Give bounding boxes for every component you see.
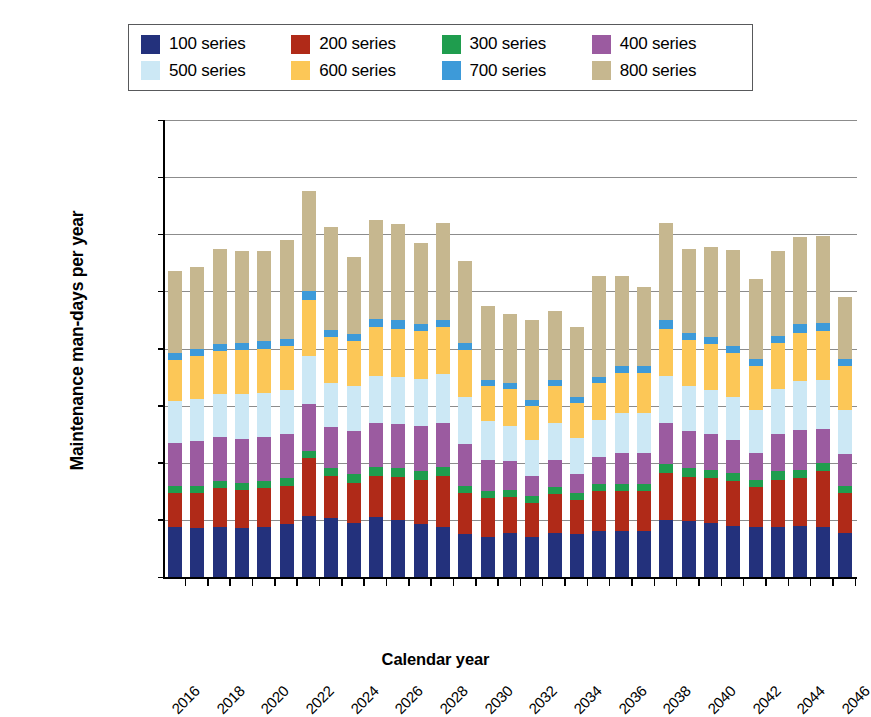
bar-2025[interactable] bbox=[369, 220, 383, 577]
bar-2037[interactable] bbox=[637, 287, 651, 577]
bar-segment-100-series bbox=[659, 520, 673, 577]
bar-segment-200-series bbox=[369, 476, 383, 517]
bar-2019[interactable] bbox=[235, 251, 249, 577]
bar-segment-500-series bbox=[570, 438, 584, 474]
bar-2016[interactable] bbox=[168, 271, 182, 577]
legend-item-400-series[interactable]: 400 series bbox=[592, 31, 742, 57]
bar-2020[interactable] bbox=[257, 251, 271, 577]
x-tick-label: 2044 bbox=[793, 682, 828, 717]
x-tick-mark bbox=[542, 577, 544, 586]
bar-segment-800-series bbox=[726, 250, 740, 346]
bar-segment-100-series bbox=[190, 528, 204, 577]
bar-segment-300-series bbox=[280, 478, 294, 485]
bar-2043[interactable] bbox=[771, 251, 785, 577]
x-tick-label: 2026 bbox=[391, 682, 426, 717]
bar-segment-200-series bbox=[391, 477, 405, 520]
bar-segment-600-series bbox=[347, 341, 361, 385]
bar-segment-100-series bbox=[726, 526, 740, 577]
bar-segment-300-series bbox=[793, 470, 807, 479]
bar-2046[interactable] bbox=[838, 297, 852, 577]
bar-2022[interactable] bbox=[302, 191, 316, 577]
bar-2029[interactable] bbox=[458, 261, 472, 577]
bar-2027[interactable] bbox=[414, 243, 428, 577]
bar-segment-500-series bbox=[436, 374, 450, 423]
legend-item-300-series[interactable]: 300 series bbox=[442, 31, 592, 57]
bar-segment-400-series bbox=[280, 434, 294, 478]
bar-segment-700-series bbox=[615, 366, 629, 373]
bar-segment-100-series bbox=[213, 527, 227, 577]
bar-segment-700-series bbox=[659, 320, 673, 329]
bar-segment-400-series bbox=[525, 476, 539, 496]
bar-segment-500-series bbox=[838, 410, 852, 454]
bar-segment-100-series bbox=[637, 531, 651, 577]
x-tick-mark bbox=[341, 577, 343, 586]
bar-segment-600-series bbox=[615, 373, 629, 413]
x-tick-mark bbox=[408, 577, 410, 586]
bar-2031[interactable] bbox=[503, 314, 517, 577]
bar-segment-800-series bbox=[592, 276, 606, 377]
bar-2045[interactable] bbox=[816, 236, 830, 577]
bar-segment-300-series bbox=[570, 493, 584, 500]
bar-segment-400-series bbox=[838, 454, 852, 485]
bar-segment-500-series bbox=[369, 376, 383, 423]
bar-segment-800-series bbox=[838, 297, 852, 358]
bar-segment-800-series bbox=[503, 314, 517, 383]
bar-segment-100-series bbox=[168, 527, 182, 577]
bar-segment-800-series bbox=[213, 249, 227, 345]
bar-2042[interactable] bbox=[749, 279, 763, 577]
bar-2021[interactable] bbox=[280, 240, 294, 577]
bar-2018[interactable] bbox=[213, 249, 227, 577]
legend-item-200-series[interactable]: 200 series bbox=[291, 31, 441, 57]
bar-segment-800-series bbox=[525, 320, 539, 400]
x-tick-mark bbox=[855, 577, 857, 586]
bar-2032[interactable] bbox=[525, 320, 539, 577]
bar-segment-700-series bbox=[168, 353, 182, 360]
bar-segment-200-series bbox=[682, 477, 696, 521]
legend-item-500-series[interactable]: 500 series bbox=[141, 58, 291, 84]
legend-item-800-series[interactable]: 800 series bbox=[592, 58, 742, 84]
bar-2036[interactable] bbox=[615, 276, 629, 577]
bar-segment-300-series bbox=[704, 470, 718, 479]
bar-2033[interactable] bbox=[548, 311, 562, 577]
x-tick-mark bbox=[743, 577, 745, 586]
bar-2041[interactable] bbox=[726, 250, 740, 577]
bar-2026[interactable] bbox=[391, 224, 405, 577]
bar-segment-200-series bbox=[436, 476, 450, 527]
bar-segment-200-series bbox=[235, 490, 249, 529]
bar-segment-400-series bbox=[704, 434, 718, 470]
bar-2035[interactable] bbox=[592, 276, 606, 577]
bar-2023[interactable] bbox=[324, 227, 338, 577]
bar-2038[interactable] bbox=[659, 223, 673, 577]
bar-segment-800-series bbox=[414, 243, 428, 324]
bar-segment-200-series bbox=[592, 491, 606, 531]
bar-segment-400-series bbox=[324, 427, 338, 468]
bar-segment-600-series bbox=[682, 340, 696, 386]
bar-segment-800-series bbox=[637, 287, 651, 366]
bar-segment-700-series bbox=[213, 344, 227, 351]
x-tick-mark bbox=[676, 577, 678, 586]
bar-2017[interactable] bbox=[190, 267, 204, 577]
legend-item-100-series[interactable]: 100 series bbox=[141, 31, 291, 57]
bar-2040[interactable] bbox=[704, 247, 718, 577]
bar-segment-600-series bbox=[592, 383, 606, 420]
bar-2044[interactable] bbox=[793, 237, 807, 577]
x-tick-mark bbox=[475, 577, 477, 586]
bar-segment-100-series bbox=[369, 517, 383, 577]
legend-item-600-series[interactable]: 600 series bbox=[291, 58, 441, 84]
bar-2034[interactable] bbox=[570, 327, 584, 577]
bar-segment-800-series bbox=[704, 247, 718, 337]
bar-2024[interactable] bbox=[347, 257, 361, 577]
bar-segment-300-series bbox=[213, 481, 227, 488]
legend-item-700-series[interactable]: 700 series bbox=[442, 58, 592, 84]
bar-segment-200-series bbox=[302, 458, 316, 515]
bar-segment-300-series bbox=[324, 468, 338, 475]
legend-swatch-icon bbox=[291, 61, 310, 80]
bar-segment-600-series bbox=[838, 366, 852, 410]
bar-2039[interactable] bbox=[682, 249, 696, 577]
bar-2030[interactable] bbox=[481, 306, 495, 577]
bar-segment-700-series bbox=[682, 333, 696, 340]
bar-2028[interactable] bbox=[436, 223, 450, 577]
bar-segment-800-series bbox=[481, 306, 495, 380]
legend-label: 600 series bbox=[319, 61, 395, 81]
bar-segment-400-series bbox=[436, 423, 450, 467]
